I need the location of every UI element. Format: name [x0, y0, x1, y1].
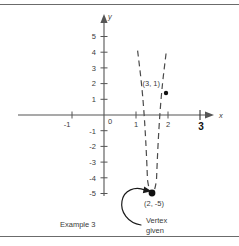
graph-canvas: x y -1 0 1 2 3 5 4 — [0, 0, 239, 246]
point-marker-3-1: (3, 1) — [142, 79, 168, 95]
y-tick-label: -1 — [89, 127, 96, 136]
y-axis-label: y — [107, 12, 113, 21]
figure-caption: Example 3 — [60, 220, 95, 229]
x-tick-label-highlight: 3 — [198, 121, 204, 132]
y-tick-label: -3 — [89, 158, 96, 167]
y-tick-label: 5 — [92, 32, 96, 41]
y-tick-label: 1 — [92, 95, 96, 104]
y-axis-arrowhead — [100, 14, 107, 23]
origin-label: 0 — [108, 117, 112, 126]
y-axis: y — [100, 12, 113, 196]
y-tick-label: 4 — [92, 48, 96, 57]
x-axis: x — [18, 111, 223, 120]
y-tick-label: 2 — [92, 79, 96, 88]
y-tick-label: -5 — [89, 189, 96, 198]
frame-rule-bottom — [0, 236, 239, 237]
x-tick-label: -1 — [64, 120, 71, 129]
y-axis-ticks-negative: -1 -2 -3 -4 -5 — [89, 127, 107, 199]
vertex-note-line2: given — [146, 226, 164, 235]
vertex-note: Vertex given — [146, 216, 168, 235]
y-tick-label: -4 — [89, 174, 96, 183]
vertex-note-line1: Vertex — [146, 216, 168, 225]
x-tick-label: 2 — [166, 120, 170, 129]
x-tick-label: 1 — [134, 120, 138, 129]
x-axis-label: x — [218, 111, 223, 120]
callout-curve — [122, 188, 145, 225]
figure-panel: x y -1 0 1 2 3 5 4 — [0, 0, 239, 246]
frame-rule-top — [0, 4, 239, 5]
point-dot — [164, 91, 168, 95]
x-axis-arrowhead — [205, 111, 214, 118]
y-tick-label: 3 — [92, 64, 96, 73]
y-axis-ticks-positive: 5 4 3 2 1 — [92, 32, 108, 104]
vertex-marker: (2, -5) — [144, 190, 165, 208]
vertex-label: (2, -5) — [144, 199, 165, 208]
x-axis-ticks: -1 0 1 2 3 — [64, 110, 205, 132]
point-label-3-1: (3, 1) — [142, 79, 160, 88]
parabola-curve — [138, 51, 167, 194]
y-tick-label: -2 — [89, 142, 96, 151]
